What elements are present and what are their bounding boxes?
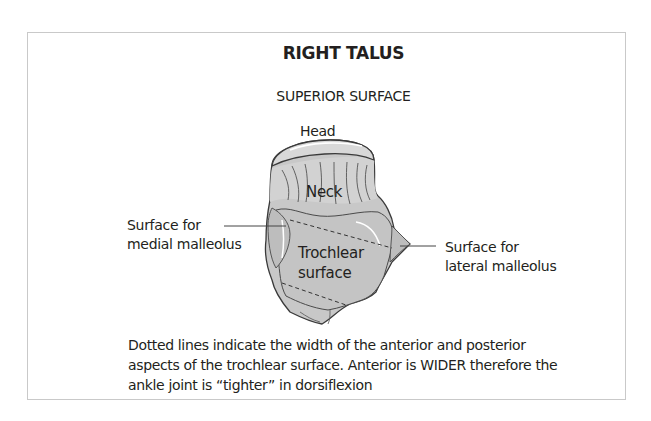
caption-line-1: Dotted lines indicate the width of the a… bbox=[128, 335, 568, 355]
label-medial-malleolus: Surface for medial malleolus bbox=[127, 216, 241, 254]
label-trochlear-line1: Trochlear bbox=[298, 243, 364, 263]
label-trochlear-line2: surface bbox=[298, 263, 364, 283]
caption-line-3: ankle joint is “tighter” in dorsiflexion bbox=[128, 375, 568, 395]
label-lateral-line1: Surface for bbox=[445, 238, 556, 257]
label-medial-line1: Surface for bbox=[127, 216, 241, 235]
label-lateral-line2: lateral malleolus bbox=[445, 257, 556, 276]
label-trochlear-surface: Trochlear surface bbox=[298, 243, 364, 283]
lateral-facet bbox=[390, 226, 410, 262]
label-head: Head bbox=[300, 122, 335, 141]
label-lateral-malleolus: Surface for lateral malleolus bbox=[445, 238, 556, 276]
label-neck: Neck bbox=[306, 183, 342, 202]
label-medial-line2: medial malleolus bbox=[127, 235, 241, 254]
caption-note: Dotted lines indicate the width of the a… bbox=[128, 335, 568, 395]
caption-line-2: aspects of the trochlear surface. Anteri… bbox=[128, 355, 568, 375]
